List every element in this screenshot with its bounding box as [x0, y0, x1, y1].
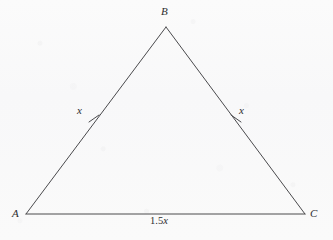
triangle-outline	[26, 27, 305, 214]
base-length-number: 1.5	[150, 215, 163, 226]
vertex-label-c: C	[310, 208, 317, 219]
vertex-label-b: B	[161, 6, 168, 17]
side-ab-line	[26, 27, 166, 214]
triangle-drawing	[0, 0, 333, 240]
base-length-variable: x	[163, 215, 168, 226]
base-length-label: 1.5x	[150, 216, 168, 227]
side-length-label-bc: x	[239, 105, 244, 116]
side-length-label-ab: x	[77, 105, 82, 116]
geometry-figure: B A C x x 1.5x	[0, 0, 333, 240]
congruence-tick-marks	[89, 115, 241, 122]
vertex-label-a: A	[12, 208, 19, 219]
side-bc-line	[166, 27, 305, 214]
